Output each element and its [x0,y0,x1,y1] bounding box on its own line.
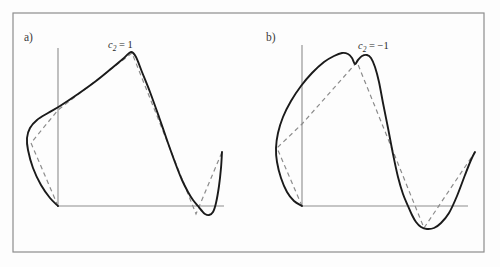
panel-a-letter: a) [24,31,33,44]
panel-a-label-value: 1 [128,39,133,50]
panel-b-curve-label: c2 = −1 [358,40,389,54]
panel-a-label-operator: = [116,39,127,50]
panel-a-curve-label: c2 = 1 [108,39,133,53]
panel-b-approximation-polyline [277,62,475,228]
panel-a: a) c2 = 1 [24,31,224,215]
panel-b-curve [276,53,475,229]
panel-b-label-operator: = [366,40,377,51]
panel-b: b) c2 = −1 [266,31,475,229]
figure-svg: a) c2 = 1 b) c2 = −1 [0,0,500,267]
panel-a-approximation-polyline [31,53,222,214]
panel-b-letter: b) [266,31,276,44]
figure-container: a) c2 = 1 b) c2 = −1 [0,0,500,267]
panel-b-label-value: −1 [378,40,389,51]
panel-a-curve [27,52,222,215]
